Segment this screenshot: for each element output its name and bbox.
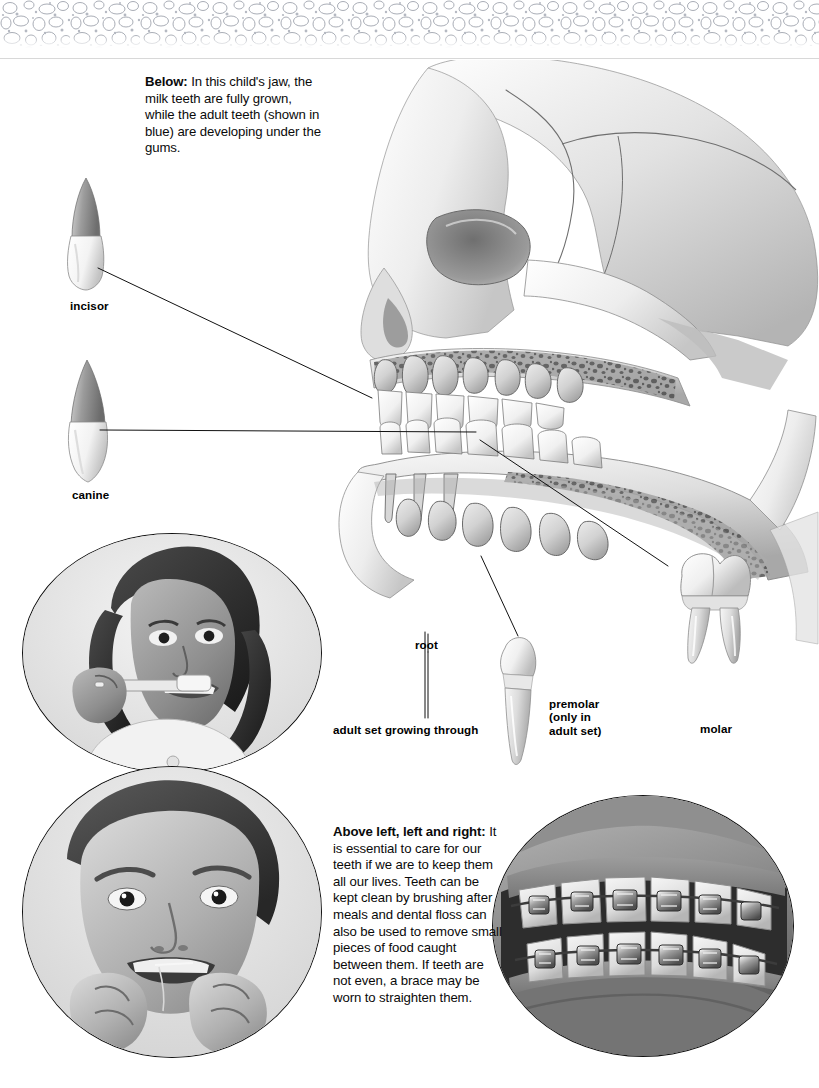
caption-tooth-care: Above left, left and right: It is essent… [333, 824, 503, 1007]
label-incisor: incisor [70, 299, 109, 312]
pebble-texture-band [0, 0, 819, 48]
incisor-tooth-figure [56, 176, 118, 292]
canine-tooth-figure [56, 358, 122, 484]
molar-tooth-figure [668, 548, 760, 668]
canine-root [71, 360, 105, 424]
band-divider-rule [0, 58, 819, 59]
label-canine: canine [72, 488, 109, 501]
label-root: root [415, 638, 438, 651]
premolar-root [505, 688, 531, 765]
premolar-crown [501, 638, 536, 676]
lower-adult-tooth-buds [396, 499, 608, 560]
teeth-with-braces-photo [492, 795, 794, 1057]
caption-below-jaw: Below: In this child's jaw, the milk tee… [145, 74, 321, 157]
label-adult-set-growing-through: adult set growing through [333, 723, 478, 736]
caption-care-lead: Above left, left and right: [333, 824, 486, 839]
label-premolar: premolar (only in adult set) [549, 697, 602, 737]
page-root: Below: In this child's jaw, the milk tee… [0, 0, 819, 1088]
boy-flossing-teeth-photo [22, 766, 322, 1058]
label-molar: molar [700, 722, 732, 735]
premolar-tooth-figure [487, 632, 549, 768]
girl-brushing-teeth-photo [22, 533, 322, 773]
molar-root-mesial [688, 608, 710, 663]
premolar-neck [503, 674, 533, 690]
molar-crown [681, 554, 751, 596]
caption-below-lead: Below: [145, 74, 188, 89]
incisor-crown [68, 236, 104, 290]
molar-root-distal [720, 608, 740, 663]
caption-care-body: It is essential to care for our teeth if… [333, 824, 502, 1005]
eye-socket [427, 210, 530, 285]
incisor-root [72, 178, 100, 238]
hand-left [70, 973, 147, 1052]
ring [95, 682, 104, 687]
